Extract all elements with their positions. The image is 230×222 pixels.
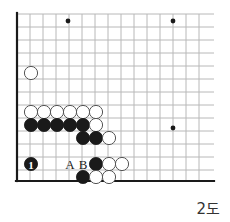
black-stone-disc	[76, 170, 89, 183]
white-stone	[24, 66, 37, 79]
white-stone-disc	[89, 170, 102, 183]
black-stone-disc	[37, 118, 50, 131]
point-label: B	[79, 157, 88, 172]
black-stone	[76, 118, 89, 131]
black-stone: 1	[24, 157, 37, 170]
white-stone-disc	[89, 105, 102, 118]
white-stone	[89, 170, 102, 183]
black-stone	[24, 118, 37, 131]
go-diagram-figure: AB1 2도	[0, 0, 230, 222]
black-stone-disc	[24, 118, 37, 131]
white-stone	[37, 105, 50, 118]
white-stone	[115, 157, 128, 170]
star-point	[171, 126, 176, 131]
white-stone	[102, 170, 115, 183]
black-stone	[76, 170, 89, 183]
white-stone-disc	[115, 157, 128, 170]
white-stone-disc	[37, 105, 50, 118]
white-stone	[102, 131, 115, 144]
black-stone-disc	[50, 118, 63, 131]
white-stone	[102, 157, 115, 170]
white-stone	[24, 105, 37, 118]
black-stone-disc	[89, 131, 102, 144]
black-stone	[89, 157, 102, 170]
white-stone-disc	[76, 105, 89, 118]
white-stone-disc	[102, 170, 115, 183]
white-stone-disc	[24, 66, 37, 79]
black-stone	[76, 131, 89, 144]
white-stone-disc	[89, 118, 102, 131]
white-stone-disc	[102, 157, 115, 170]
star-point	[66, 19, 71, 24]
white-stone	[89, 118, 102, 131]
black-stone-disc	[76, 131, 89, 144]
black-stone-disc	[63, 118, 76, 131]
white-stone-disc	[50, 105, 63, 118]
figure-caption: 2도	[196, 197, 220, 218]
white-stone	[89, 105, 102, 118]
black-stone	[50, 118, 63, 131]
black-stone	[37, 118, 50, 131]
white-stone	[76, 105, 89, 118]
point-label: A	[65, 157, 75, 172]
white-stone-disc	[102, 131, 115, 144]
grid-lines	[17, 14, 214, 181]
star-point	[171, 19, 176, 24]
white-stone	[63, 105, 76, 118]
black-stone-disc	[89, 157, 102, 170]
stone-move-number: 1	[28, 159, 34, 171]
go-board: AB1	[0, 0, 230, 222]
white-stone-disc	[63, 105, 76, 118]
black-stone	[89, 131, 102, 144]
white-stone	[50, 105, 63, 118]
white-stone-disc	[24, 105, 37, 118]
black-stone	[63, 118, 76, 131]
black-stone-disc	[76, 118, 89, 131]
stones-layer: 1	[24, 66, 128, 183]
